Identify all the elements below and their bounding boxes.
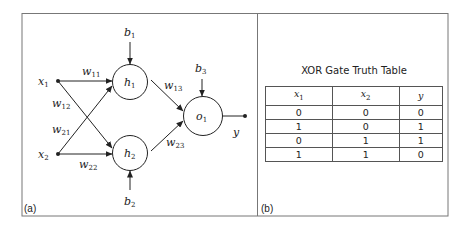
cell: 1 (332, 147, 399, 161)
label-b1: b1 (124, 26, 136, 40)
table-row: 0 1 1 (266, 133, 443, 147)
label-w23: w23 (166, 136, 184, 150)
cell: 0 (266, 105, 333, 119)
cell: 0 (332, 105, 399, 119)
label-b2: b2 (124, 195, 136, 209)
cell: 0 (266, 133, 333, 147)
cell: 1 (332, 133, 399, 147)
cell: 0 (332, 119, 399, 133)
label-w13: w13 (164, 79, 182, 93)
panel-a-label: (a) (24, 203, 36, 214)
header-x1: x1 (266, 87, 333, 106)
label-b3: b3 (195, 62, 207, 76)
cell: 1 (399, 119, 442, 133)
label-w21: w21 (52, 123, 70, 137)
label-y: y (232, 126, 240, 139)
table-title: XOR Gate Truth Table (265, 65, 443, 76)
cell: 1 (266, 119, 333, 133)
cell: 1 (266, 147, 333, 161)
edge-w21 (58, 86, 112, 154)
label-w11: w11 (82, 65, 100, 79)
header-x2: x2 (332, 87, 399, 106)
cell: 0 (399, 105, 442, 119)
label-w22: w22 (79, 158, 97, 172)
cell: 0 (399, 147, 442, 161)
header-y: y (399, 87, 442, 106)
panel-b-label: (b) (261, 203, 273, 214)
table-row: 0 0 0 (266, 105, 443, 119)
table-header-row: x1 x2 y (266, 87, 443, 106)
truth-table: x1 x2 y 0 0 0 1 0 1 0 1 1 1 1 0 (265, 86, 443, 162)
label-w12: w12 (52, 97, 70, 111)
edge-w12 (58, 81, 112, 148)
label-x1: x1 (38, 75, 49, 89)
output-dot (243, 114, 247, 118)
table-row: 1 1 0 (266, 147, 443, 161)
label-x2: x2 (38, 148, 49, 162)
table-row: 1 0 1 (266, 119, 443, 133)
cell: 1 (399, 133, 442, 147)
